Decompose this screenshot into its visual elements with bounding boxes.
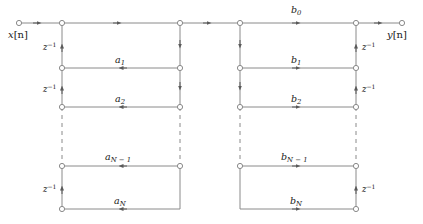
delay-label-right-mid: z−1: [362, 84, 376, 93]
signal-flow-graph: [0, 0, 423, 224]
node-left-r1: [59, 65, 64, 70]
node-output: [399, 20, 404, 25]
delay-label-left-bottom: z−1: [43, 184, 57, 193]
node-midright-r1: [237, 65, 242, 70]
node-midright-top: [237, 20, 242, 25]
node-midright-rN-1: [237, 163, 242, 168]
output-signal-label: y[n]: [387, 30, 407, 40]
node-midleft-r1: [177, 65, 182, 70]
node-midleft-top: [177, 20, 182, 25]
coefficient-label-bN-1: bN − 1: [281, 152, 307, 163]
coefficient-label-aN: aN: [114, 196, 126, 207]
coefficient-label-b2: b2: [291, 94, 301, 105]
coefficient-label-a2: a2: [115, 94, 125, 105]
node-input: [16, 20, 21, 25]
coefficient-label-a1: a1: [115, 55, 125, 66]
nodes: [16, 20, 404, 211]
delay-label-right-bottom: z−1: [362, 184, 376, 193]
input-signal-label: x[n]: [8, 30, 28, 40]
coefficient-label-b0: b0: [291, 5, 301, 16]
node-right-rN-1: [353, 163, 358, 168]
node-left-rN: [59, 206, 64, 211]
wires: [19, 23, 402, 209]
arrowheads: [33, 23, 380, 209]
delay-label-left-top: z−1: [43, 42, 57, 51]
node-left-r2: [59, 104, 64, 109]
node-midleft-r2: [177, 104, 182, 109]
node-right-rN: [353, 206, 358, 211]
delay-label-left-mid: z−1: [43, 84, 57, 93]
node-left-rN-1: [59, 163, 64, 168]
node-right-r1: [353, 65, 358, 70]
figure-canvas: x[n] y[n] b0 a1 a2 aN − 1 aN b1 b2 bN − …: [0, 0, 423, 224]
delay-label-right-top: z−1: [362, 42, 376, 51]
node-right-r2: [353, 104, 358, 109]
node-midleft-rN-1: [177, 163, 182, 168]
node-right-top: [353, 20, 358, 25]
node-midright-r2: [237, 104, 242, 109]
coefficient-label-bN: bN: [290, 196, 302, 207]
coefficient-label-b1: b1: [291, 55, 301, 66]
coefficient-label-aN-1: aN − 1: [105, 152, 131, 163]
node-left-top: [59, 20, 64, 25]
